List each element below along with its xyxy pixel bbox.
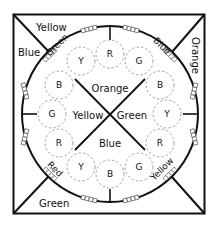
rim-label-bottom-right: Yellow [148, 156, 175, 183]
center-label-top: Orange [92, 83, 129, 94]
ring-label: G [136, 56, 143, 66]
diagonal-bottom-right [172, 177, 205, 214]
center-label-left: Yellow [72, 110, 104, 121]
game-board-diagram: Y R G B Y R G B Y R G B Orange Yellow Gr… [0, 0, 218, 227]
ring-label: B [56, 80, 62, 90]
outer-label-bottom: Green [39, 198, 69, 209]
ring-label: R [107, 49, 113, 59]
rim-label-top-left: Green [44, 32, 70, 58]
outer-label-left: Blue [18, 47, 40, 58]
ring-label: B [157, 80, 163, 90]
center-label-right: Green [117, 110, 147, 121]
ring-label: R [56, 138, 62, 148]
ring-label: G [136, 162, 143, 172]
ring-label: Y [77, 56, 84, 66]
ring-label: B [107, 169, 113, 179]
ring-label: Y [163, 109, 170, 119]
ring-label: G [49, 109, 56, 119]
ring-label: Y [77, 162, 84, 172]
center-label-bottom: Blue [99, 138, 121, 149]
ring-label: R [157, 138, 163, 148]
outer-label-top: Yellow [35, 22, 67, 33]
outer-label-right: Orange [190, 37, 201, 74]
